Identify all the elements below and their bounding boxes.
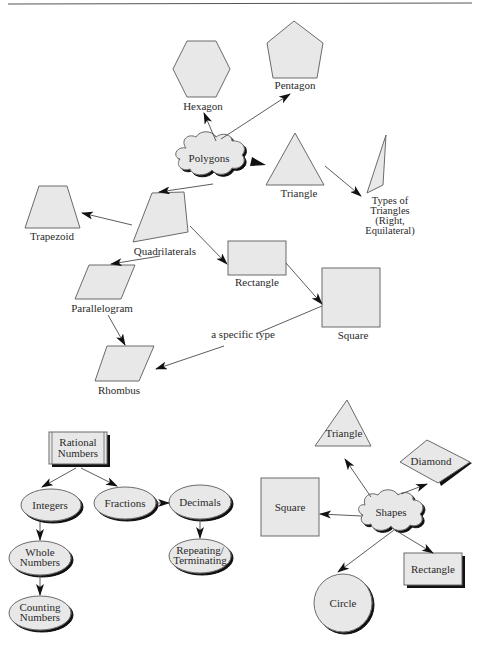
trapezoid-icon xyxy=(25,186,80,228)
pentagon-node[interactable]: Pentagon xyxy=(267,21,323,91)
quadrilaterals-node[interactable]: Quadrilaterals xyxy=(133,192,196,257)
repeating-terminating-node[interactable]: Repeating/ Terminating xyxy=(169,539,231,573)
edge-shapes-circle xyxy=(338,530,394,572)
shapes-square-node[interactable]: Square xyxy=(261,478,319,536)
rhombus-node[interactable]: Rhombus xyxy=(95,346,154,396)
header-rule xyxy=(8,3,472,4)
fractions-node[interactable]: Fractions xyxy=(94,487,156,519)
edge-shapes-rectangle xyxy=(395,530,433,553)
types-of-triangles-line-4: Equilateral) xyxy=(365,225,415,237)
parallelogram-icon xyxy=(75,265,135,299)
edge-rational-integers xyxy=(42,468,76,487)
edge-polygons-pentagon xyxy=(221,94,290,139)
parallelogram-label: Parallelogram xyxy=(71,302,133,314)
fractions-label: Fractions xyxy=(105,497,146,509)
whole-numbers-line-2: Numbers xyxy=(20,556,60,568)
repeating-terminating-line-2: Terminating xyxy=(173,554,227,566)
shapes-circle-node[interactable]: Circle xyxy=(314,574,372,632)
shapes-diamond-label: Diamond xyxy=(411,455,452,467)
edge-quadrilaterals-trapezoid xyxy=(82,213,132,225)
square-label: Square xyxy=(338,329,369,341)
triangle-icon xyxy=(315,400,371,446)
rectangle-label: Rectangle xyxy=(235,276,279,288)
rhombus-icon xyxy=(95,346,154,381)
right-triangle-icon xyxy=(367,135,386,193)
edge-shapes-triangle xyxy=(345,459,371,497)
shapes-triangle-node[interactable]: Triangle xyxy=(315,400,371,446)
rectangle-icon xyxy=(228,241,286,275)
integers-label: Integers xyxy=(32,499,67,511)
edge-shapes-diamond xyxy=(401,484,427,494)
hexagon-icon xyxy=(173,41,230,97)
polygons-diagram: Hexagon Pentagon Polygons Triangle Types… xyxy=(25,21,415,396)
trapezoid-label: Trapezoid xyxy=(30,230,75,242)
types-of-triangles-node[interactable]: Types of Triangles (Right, Equilateral) xyxy=(365,135,415,237)
edge-triangle-types xyxy=(325,166,361,196)
integers-node[interactable]: Integers xyxy=(21,489,81,521)
parallelogram-node[interactable]: Parallelogram xyxy=(71,265,135,314)
counting-numbers-node[interactable]: Counting Numbers xyxy=(9,596,71,630)
decimals-label: Decimals xyxy=(179,496,221,508)
rational-numbers-diagram: Rational Numbers Integers Fractions Deci… xyxy=(9,432,231,630)
shapes-root-node[interactable]: Shapes xyxy=(359,490,423,531)
shapes-circle-label: Circle xyxy=(330,597,357,609)
edge-quadrilaterals-parallelogram xyxy=(111,256,160,264)
polygons-label: Polygons xyxy=(189,152,230,164)
pentagon-label: Pentagon xyxy=(275,79,316,91)
shapes-triangle-label: Triangle xyxy=(326,427,363,439)
edge-rectangle-square xyxy=(286,263,322,304)
shapes-diamond-node[interactable]: Diamond xyxy=(400,440,472,486)
triangle-node[interactable]: Triangle xyxy=(266,133,324,199)
pentagon-icon xyxy=(267,21,323,78)
concept-map-canvas: Hexagon Pentagon Polygons Triangle Types… xyxy=(0,0,486,652)
hexagon-node[interactable]: Hexagon xyxy=(173,41,230,112)
shapes-rectangle-node[interactable]: Rectangle xyxy=(404,553,465,588)
whole-numbers-node[interactable]: Whole Numbers xyxy=(9,541,71,575)
edge-label-a-specific-type: a specific type xyxy=(211,328,275,340)
quadrilateral-icon xyxy=(133,192,188,242)
shapes-rectangle-label: Rectangle xyxy=(411,563,455,575)
shapes-label: Shapes xyxy=(375,506,406,518)
edge-polygons-quadrilaterals xyxy=(159,184,213,192)
hexagon-label: Hexagon xyxy=(183,100,223,112)
square-node[interactable]: Square xyxy=(322,268,380,341)
rectangle-node[interactable]: Rectangle xyxy=(228,241,286,288)
rational-numbers-root-node[interactable]: Rational Numbers xyxy=(49,432,110,467)
edge-parallelogram-rhombus xyxy=(108,315,125,345)
shapes-diagram: Triangle Diamond Square Shapes Rectangle… xyxy=(261,400,472,632)
rhombus-label: Rhombus xyxy=(98,384,140,396)
counting-numbers-line-2: Numbers xyxy=(20,611,60,623)
rational-numbers-line-2: Numbers xyxy=(58,447,98,459)
shapes-square-label: Square xyxy=(275,501,306,513)
triangle-label: Triangle xyxy=(281,187,318,199)
triangle-icon xyxy=(266,133,324,185)
edge-shapes-square xyxy=(320,514,362,516)
edge-rational-fractions xyxy=(81,468,117,486)
edge-square-rhombus-b xyxy=(156,346,224,369)
square-icon xyxy=(322,268,380,327)
decimals-node[interactable]: Decimals xyxy=(169,485,231,519)
polygons-root-node[interactable]: Polygons xyxy=(176,132,245,175)
edge-polygons-triangle xyxy=(250,157,266,166)
trapezoid-node[interactable]: Trapezoid xyxy=(25,186,80,242)
quadrilaterals-label: Quadrilaterals xyxy=(134,245,196,257)
